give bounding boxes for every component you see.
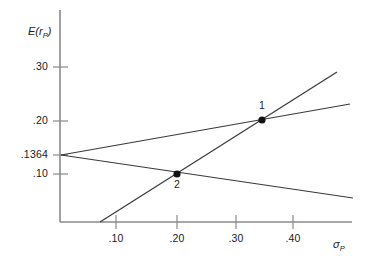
y-tick-label-30: .30 (0, 60, 48, 72)
data-point-marker-2 (173, 170, 180, 177)
x-axis-title-text: σP (333, 238, 345, 250)
x-tick-label-20: .20 (157, 232, 197, 244)
y-tick-label-20: .20 (0, 114, 48, 126)
chart-figure: .30 .20 .1364 .10 .10 .20 .30 .40 E(rP) … (0, 0, 370, 260)
data-point-label-2: 2 (167, 178, 187, 190)
x-tick-label-30: .30 (216, 232, 256, 244)
data-point-label-1: 1 (252, 99, 272, 111)
x-tick-label-40: .40 (273, 232, 313, 244)
series-line-downward-line-from-intercept (61, 155, 353, 198)
series-line-capital-allocation-line (100, 72, 337, 222)
chart-plot-area (0, 0, 370, 260)
y-axis-title-text: E(rP) (28, 25, 51, 37)
data-point-marker-1 (258, 116, 265, 123)
series-line-upward-line-from-intercept (61, 104, 350, 155)
x-axis-title: σP (333, 238, 345, 253)
y-tick-label-10: .10 (0, 167, 48, 179)
y-axis-title: E(rP) (28, 25, 51, 40)
x-tick-label-10: .10 (96, 232, 136, 244)
y-tick-label-1364: .1364 (0, 148, 48, 160)
